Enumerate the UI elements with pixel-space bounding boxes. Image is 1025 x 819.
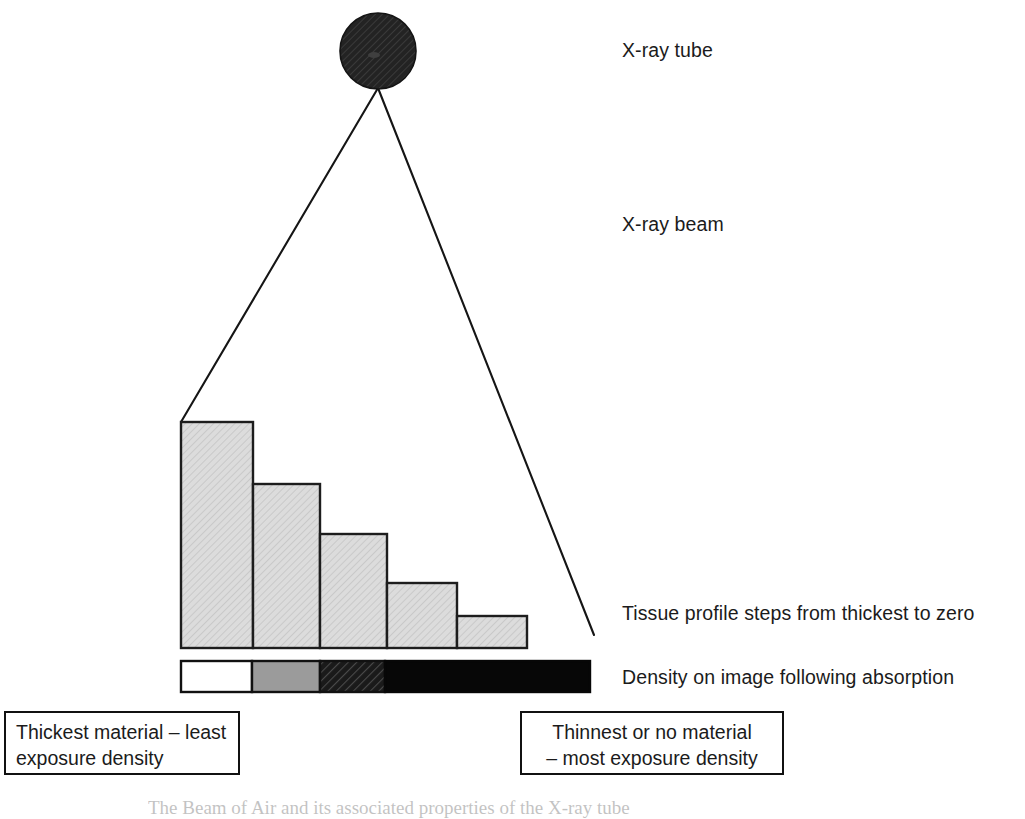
xray-tube-focal-spot xyxy=(368,52,380,58)
density-bar xyxy=(181,661,590,692)
step-bar-3 xyxy=(320,534,387,648)
caption-thinnest-line2: – most exposure density xyxy=(532,746,772,772)
beam-ray-right xyxy=(378,88,594,635)
beam-ray-left xyxy=(181,88,378,422)
density-segment-white xyxy=(181,661,252,692)
density-segment-black xyxy=(385,661,590,692)
xray-tube-icon xyxy=(340,13,416,89)
caption-thinnest-line1: Thinnest or no material xyxy=(532,720,772,746)
label-density: Density on image following absorption xyxy=(622,665,954,689)
density-segment-hatched xyxy=(320,661,385,692)
caption-box-thickest-material: Thickest material – least exposure densi… xyxy=(4,711,240,775)
figure-caption: The Beam of Air and its associated prope… xyxy=(148,797,908,819)
step-bar-4 xyxy=(387,583,457,648)
step-bar-1 xyxy=(181,422,253,648)
caption-box-thinnest-material: Thinnest or no material – most exposure … xyxy=(520,711,784,775)
xray-tube-circle xyxy=(340,13,416,89)
label-tissue-profile: Tissue profile steps from thickest to ze… xyxy=(622,601,974,625)
density-segment-gray xyxy=(252,661,320,692)
step-bar-5 xyxy=(457,616,527,648)
caption-thickest-line1: Thickest material – least xyxy=(16,720,228,746)
tissue-step-wedge xyxy=(181,422,527,648)
label-xray-tube: X-ray tube xyxy=(622,38,713,62)
step-bar-2 xyxy=(253,484,320,648)
label-xray-beam: X-ray beam xyxy=(622,212,724,236)
caption-thickest-line2: exposure density xyxy=(16,746,228,772)
